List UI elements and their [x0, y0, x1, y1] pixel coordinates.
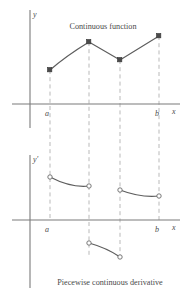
bottom-panel-caption: Piecewise continuous derivative [57, 278, 163, 287]
bottom-tick-label-a: a [45, 225, 49, 234]
derivative-segment-1 [50, 177, 89, 186]
top-curve-segment-3 [120, 36, 159, 60]
figure-container: y x a b Continuous function [0, 0, 190, 295]
top-y-axis-label: y [32, 10, 37, 19]
top-x-axis-label: x [171, 107, 176, 116]
derivative-endpoint-2-left [87, 241, 91, 245]
top-tick-label-a: a [45, 109, 49, 118]
dashed-guides [50, 36, 159, 258]
bottom-x-axis-label: x [171, 223, 176, 232]
top-point-peak [87, 40, 91, 44]
top-point-b [157, 34, 161, 38]
piecewise-continuous-derivative-figure: y x a b Continuous function [0, 0, 190, 295]
bottom-tick-label-b: b [155, 225, 159, 234]
derivative-endpoint-3-left [118, 188, 122, 192]
top-panel-title: Continuous function [69, 22, 136, 31]
derivative-endpoint-1-right [87, 184, 91, 188]
top-panel: y x a b Continuous function [12, 10, 180, 128]
derivative-segment-2 [89, 243, 120, 257]
top-point-a [48, 68, 52, 72]
bottom-y-axis-label: y′ [32, 155, 39, 164]
top-point-corner [118, 58, 122, 62]
top-tick-label-b: b [155, 109, 159, 118]
derivative-segment-3 [120, 190, 159, 196]
derivative-endpoint-1-left [48, 175, 52, 179]
top-curve-segment-1 [50, 42, 89, 70]
derivative-endpoint-3-right [157, 194, 161, 198]
derivative-endpoint-2-right [118, 255, 122, 259]
bottom-panel: y′ x a b Piecewise continuous derivative [12, 155, 180, 288]
top-curve-segment-2 [89, 42, 120, 60]
